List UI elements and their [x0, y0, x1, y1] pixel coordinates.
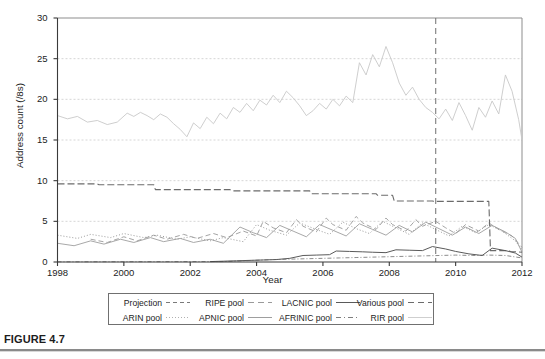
legend-label-ripe-pool: RIPE pool	[205, 298, 244, 308]
y-tick-label-20: 20	[26, 94, 48, 104]
legend-label-projection: Projection	[124, 298, 162, 308]
x-tick-label-2012: 2012	[502, 268, 542, 278]
legend-label-rir-pool: RIR pool	[371, 313, 404, 323]
legend-row-1: Projection RIPE pool LACNIC pool Various…	[109, 295, 435, 310]
legend-item-arin-pool[interactable]: ARIN pool	[109, 310, 193, 325]
x-tick-label-1998: 1998	[38, 268, 78, 278]
chart-legend: Projection RIPE pool LACNIC pool Various…	[108, 293, 434, 325]
y-axis-title: Address count (/8s)	[14, 61, 25, 191]
legend-item-ripe-pool[interactable]: RIPE pool	[193, 295, 275, 310]
series-line-apnic-pool	[58, 222, 523, 252]
legend-item-various-pool[interactable]: Various pool	[363, 295, 435, 310]
legend-item-projection[interactable]: Projection	[109, 295, 193, 310]
legend-item-lacnic-pool[interactable]: LACNIC pool	[275, 295, 363, 310]
legend-label-various-pool: Various pool	[357, 298, 404, 308]
legend-label-lacnic-pool: LACNIC pool	[282, 298, 332, 308]
y-tick-label-25: 25	[26, 54, 48, 64]
legend-item-apnic-pool[interactable]: APNIC pool	[193, 310, 275, 325]
series-line-rir-pool	[58, 46, 523, 140]
y-tick-label-5: 5	[26, 216, 48, 226]
y-tick-label-10: 10	[26, 176, 48, 186]
legend-swatch-apnic-pool	[248, 313, 272, 322]
legend-label-afrinic-pool: AFRINIC pool	[279, 313, 332, 323]
x-tick-label-2004: 2004	[237, 268, 277, 278]
y-tick-label-15: 15	[26, 135, 48, 145]
legend-item-rir-pool[interactable]: RIR pool	[363, 310, 435, 325]
legend-label-arin-pool: ARIN pool	[123, 313, 162, 323]
legend-item-afrinic-pool[interactable]: AFRINIC pool	[275, 310, 363, 325]
x-tick-label-2002: 2002	[170, 268, 210, 278]
plot-svg	[0, 0, 545, 290]
legend-swatch-arin-pool	[166, 313, 190, 322]
legend-row-2: ARIN pool APNIC pool AFRINIC pool RIR po…	[109, 310, 435, 325]
legend-label-apnic-pool: APNIC pool	[199, 313, 244, 323]
caption-hairline	[0, 351, 545, 352]
y-tick-label-30: 30	[26, 13, 48, 23]
chart-canvas: Address count (/8s) Year 051015202530199…	[0, 0, 545, 290]
x-tick-label-2010: 2010	[436, 268, 476, 278]
y-tick-label-0: 0	[26, 257, 48, 267]
x-tick-label-2008: 2008	[369, 268, 409, 278]
x-tick-label-2000: 2000	[104, 268, 144, 278]
legend-swatch-afrinic-pool	[336, 313, 360, 322]
legend-swatch-various-pool	[408, 298, 432, 307]
legend-swatch-rir-pool	[408, 313, 432, 322]
series-line-various-pool	[58, 184, 523, 252]
legend-swatch-ripe-pool	[248, 298, 272, 307]
legend-swatch-projection	[166, 298, 190, 307]
series-line-lacnic-pool	[210, 247, 522, 262]
figure-caption: FIGURE 4.7	[4, 333, 65, 345]
figure-4-7: Address count (/8s) Year 051015202530199…	[0, 0, 545, 359]
x-tick-label-2006: 2006	[303, 268, 343, 278]
